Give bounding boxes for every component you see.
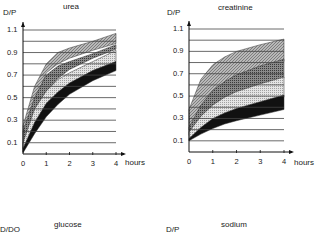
x-tick-label: 4 xyxy=(282,157,286,166)
x-tick-label: 3 xyxy=(91,159,95,168)
y-tick-label: 0.7 xyxy=(7,70,17,79)
y-tick-label: 0.3 xyxy=(173,113,183,122)
y-tick-label: 0.5 xyxy=(7,93,17,102)
y-tick-label: 0.5 xyxy=(173,91,183,100)
x-tick-label: 0 xyxy=(21,159,25,168)
urea-title: urea xyxy=(63,2,79,11)
y-tick-label: 0.9 xyxy=(173,46,183,55)
urea-x-axis-label: hours xyxy=(125,158,145,167)
x-tick-label: 4 xyxy=(114,159,118,168)
creatinine-x-axis-label: hours xyxy=(294,158,314,167)
creatinine-plot xyxy=(187,21,294,154)
x-tick-label: 3 xyxy=(258,157,262,166)
sodium-y-axis-label: D/P xyxy=(166,225,179,234)
x-tick-label: 2 xyxy=(235,157,239,166)
urea-plot xyxy=(21,22,126,156)
y-tick-label: 0.3 xyxy=(7,115,17,124)
y-tick-label: 0.1 xyxy=(7,138,17,147)
y-tick-label: 1.1 xyxy=(7,25,17,34)
y-tick-label: 1.1 xyxy=(173,24,183,33)
y-tick-label: 0.7 xyxy=(173,69,183,78)
creatinine-title: creatinine xyxy=(218,3,253,12)
glucose-y-axis-label: D/DO xyxy=(0,225,20,234)
x-tick-label: 1 xyxy=(211,157,215,166)
y-tick-label: 0.9 xyxy=(7,48,17,57)
x-tick-label: 2 xyxy=(68,159,72,168)
chart-canvas xyxy=(0,0,317,238)
creatinine-y-axis-label: D/P xyxy=(167,8,180,17)
x-tick-label: 1 xyxy=(44,159,48,168)
y-tick-label: 0.1 xyxy=(173,136,183,145)
x-tick-label: 0 xyxy=(187,157,191,166)
glucose-title: glucose xyxy=(54,220,82,229)
sodium-title: sodium xyxy=(221,220,247,229)
urea-y-axis-label: D/P xyxy=(3,8,16,17)
